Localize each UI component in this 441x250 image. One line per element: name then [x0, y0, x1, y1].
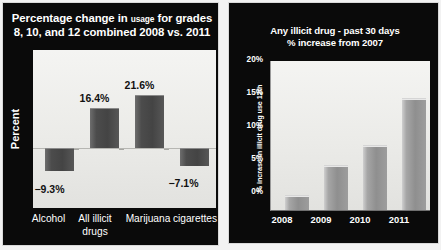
right-chart-ytick-15: 15%	[239, 88, 263, 97]
screenshot-root: Percentage change in usage for grades8, …	[0, 0, 441, 250]
right-chart-xtick-2010: 2010	[340, 214, 380, 225]
left-title-line2: 8, 10, and 12 combined 2008 vs. 2011	[14, 26, 211, 38]
right-chart-bar-2011	[402, 98, 426, 210]
right-chart-ytick-20: 20%	[239, 55, 263, 64]
right-chart-ytick-5: 5%	[239, 154, 263, 163]
left-chart-category-cigarettes: cigarettes	[169, 213, 219, 226]
left-chart-tick-3	[164, 149, 169, 150]
left-title-usage-word: usage	[131, 14, 155, 24]
right-chart-title: Any illicit drug - past 30 days% increas…	[237, 25, 433, 48]
right-chart-xtick-2011: 2011	[379, 214, 419, 225]
left-chart-y-axis-title: Percent	[9, 99, 21, 159]
left-chart-tick-1	[74, 149, 79, 150]
right-chart-bar-2008	[285, 195, 309, 210]
left-chart-tick-2	[119, 149, 124, 150]
left-chart-value-label-marijuana: 21.6%	[116, 79, 163, 91]
right-title-line1: Any illicit drug - past 30 days	[270, 25, 400, 36]
left-chart-bar-marijuana	[135, 95, 164, 148]
left-title-part2: for grades	[154, 12, 212, 24]
right-chart-xtick-2009: 2009	[301, 214, 341, 225]
right-chart-ytick-0: 0%	[239, 187, 263, 196]
left-chart-value-label-all-illicit-drugs: 16.4%	[71, 92, 118, 104]
left-chart-bar-alcohol	[45, 148, 74, 171]
right-chart-ytick-10: 10%	[239, 121, 263, 130]
left-chart-panel: Percentage change in usage for grades8, …	[2, 2, 219, 246]
right-chart-xtick-2008: 2008	[262, 214, 302, 225]
left-chart-value-label-alcohol: −9.3%	[26, 183, 73, 195]
left-chart-category-all-illicit-drugs: All illicit drugs	[67, 213, 123, 239]
right-chart-bar-2009	[324, 165, 348, 210]
right-chart-plot-area	[270, 61, 430, 211]
right-chart-bar-2010	[363, 145, 387, 210]
right-title-line2: % increase from 2007	[287, 37, 383, 48]
left-chart-bar-all-illicit-drugs	[90, 108, 119, 148]
right-chart-panel: Any illicit drug - past 30 days% increas…	[228, 2, 439, 244]
left-chart-value-label-cigarettes: −7.1%	[160, 177, 207, 189]
left-title-part1: Percentage change in	[12, 12, 131, 24]
left-chart-title: Percentage change in usage for grades8, …	[9, 12, 215, 40]
left-chart-bar-cigarettes	[180, 148, 209, 166]
